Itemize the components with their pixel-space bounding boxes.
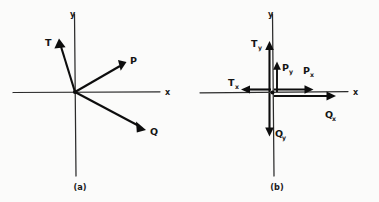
panel-a-vector-P-shaft <box>75 66 120 92</box>
panel-b-vector-Ty: T y <box>251 38 274 92</box>
panel-a-vector-Q: Q <box>75 92 158 137</box>
panel-b-vector-Tx-subscript: x <box>235 83 239 90</box>
panel-b: T y P y Q y T x <box>200 10 359 192</box>
panel-a-y-axis <box>75 14 77 176</box>
panel-a-y-axis-label: y <box>70 10 76 19</box>
panel-b-vector-Py-label: P <box>282 62 289 73</box>
panel-b-origin-dot <box>271 91 275 95</box>
panel-a-vector-Q-arrowhead <box>136 122 146 133</box>
panel-a: T P Q y x (a) <box>13 10 171 192</box>
panel-b-vector-Qx-subscript: x <box>332 115 336 122</box>
panel-b-caption: (b) <box>270 182 284 192</box>
panel-b-vector-Px-subscript: x <box>310 71 314 78</box>
panel-a-vector-P: P <box>75 55 137 92</box>
panel-a-vector-T: T <box>45 37 75 92</box>
panel-a-vector-P-label: P <box>130 55 137 66</box>
panel-b-vector-Qy-arrowhead <box>265 128 274 137</box>
panel-b-vector-Ty-label: T <box>251 38 258 49</box>
panel-b-vector-Tx: T x <box>228 77 271 94</box>
panel-a-vector-T-label: T <box>45 37 52 48</box>
panel-b-vector-Py-subscript: y <box>289 68 293 76</box>
panel-b-vector-Qx-arrowhead <box>327 91 337 100</box>
panel-b-vector-Tx-label: T <box>228 77 235 88</box>
panel-a-vector-T-shaft <box>61 45 76 92</box>
panel-b-vector-Ty-subscript: y <box>258 44 262 52</box>
panel-a-caption: (a) <box>73 182 86 192</box>
panel-a-x-axis-label: x <box>165 88 171 97</box>
panel-a-vector-Q-label: Q <box>150 126 158 137</box>
panel-b-y-axis <box>273 14 275 176</box>
panel-b-vector-Qy-subscript: y <box>282 134 286 142</box>
panel-b-vector-Py-arrowhead <box>273 62 281 70</box>
vector-diagram-figure: T P Q y x (a) <box>0 0 379 202</box>
panel-b-y-axis-label: y <box>268 10 274 19</box>
panel-b-vector-Px-label: P <box>303 65 310 76</box>
panel-a-x-axis <box>13 92 160 93</box>
panel-b-vector-Qx: Q x <box>274 91 336 122</box>
panel-a-vector-T-arrowhead <box>54 39 65 49</box>
panel-b-x-axis-label: x <box>353 88 359 97</box>
panel-a-vector-Q-shaft <box>75 92 139 126</box>
figure-canvas: T P Q y x (a) <box>0 0 379 202</box>
panel-b-vector-Py: P y <box>273 62 293 93</box>
panel-b-vector-Qy: Q y <box>265 93 286 142</box>
